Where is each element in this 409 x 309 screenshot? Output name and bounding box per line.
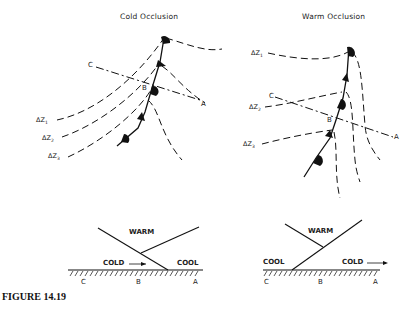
cold-contour-dz2: [62, 62, 160, 137]
cold-xs-cold-label: COLD: [103, 259, 124, 267]
warm-xs-cool-label: COOL: [263, 258, 285, 266]
warm-contour-right-1: [352, 52, 380, 160]
warm-xs-c: C: [264, 278, 269, 286]
cold-contour-label-3: ΔZ3: [48, 152, 60, 161]
cold-xs-b: B: [136, 278, 141, 286]
warm-contour-label-1: ΔZ1: [251, 49, 263, 58]
cold-contour-dz3: [68, 88, 152, 157]
cold-ground-hatching: [70, 271, 198, 276]
cold-point-a: A: [201, 100, 206, 108]
cold-contour-dz1: [57, 38, 164, 120]
warm-front-symbols: [313, 47, 355, 166]
cold-contour-upper-right: [166, 38, 222, 50]
cold-point-c: C: [88, 61, 93, 69]
warm-contour-label-2: ΔZ2: [249, 103, 261, 112]
warm-contour-dz3: [262, 130, 332, 144]
warm-contour-right-3: [334, 132, 340, 198]
warm-occluded-front-line: [304, 47, 349, 177]
warm-point-a: A: [394, 133, 399, 141]
warm-xs-b: B: [318, 278, 323, 286]
cold-contour-label-1: ΔZ1: [36, 116, 48, 125]
warm-xs-a: A: [373, 278, 378, 286]
cold-xs-c: C: [81, 278, 86, 286]
cold-point-b: B: [142, 84, 147, 92]
cold-contour-label-2: ΔZ2: [42, 134, 54, 143]
warm-section-line-c-a: [275, 97, 393, 137]
warm-xs-cold-label: COLD: [342, 258, 363, 266]
warm-ground-hatching: [264, 271, 377, 276]
warm-contour-label-3: ΔZ3: [243, 140, 255, 149]
figure-caption: FIGURE 14.19: [2, 291, 66, 302]
cold-xs-a: A: [193, 278, 198, 286]
warm-point-b: B: [327, 116, 332, 124]
warm-contour-dz2: [265, 92, 342, 107]
cold-xs-warm-label: WARM: [129, 228, 154, 236]
cold-occlusion-map: [57, 36, 222, 160]
cold-occlusion-title: Cold Occlusion: [120, 12, 178, 21]
warm-xs-warm-label: WARM: [308, 227, 333, 235]
warm-contour-dz1: [268, 52, 348, 59]
cold-contour-mid-right: [162, 66, 205, 103]
warm-contour-right-2: [346, 92, 360, 182]
figure-14-19: Cold Occlusion C B A ΔZ1 ΔZ2 ΔZ3 Warm Oc…: [0, 0, 409, 309]
cold-xs-cool-label: COOL: [177, 259, 199, 267]
warm-point-c: C: [269, 92, 274, 100]
cold-contour-lower-right: [148, 100, 182, 160]
warm-occlusion-title: Warm Occlusion: [302, 12, 365, 21]
